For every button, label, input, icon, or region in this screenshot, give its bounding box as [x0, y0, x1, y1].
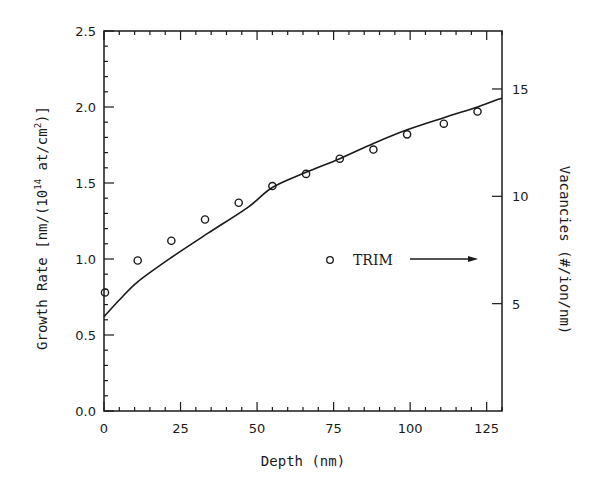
- data-point: [235, 199, 242, 206]
- x-tick-label: 0: [100, 421, 108, 436]
- y-tick-label: 2.0: [75, 100, 96, 115]
- x-tick-label: 50: [249, 421, 266, 436]
- y-axis-right: 51015: [492, 82, 529, 312]
- legend-marker-icon: [327, 257, 334, 264]
- y-title-mid: at/cm: [34, 128, 50, 179]
- y2-tick-label: 15: [512, 82, 529, 97]
- data-point: [403, 131, 410, 138]
- data-point: [440, 120, 447, 127]
- y-tick-label: 2.5: [75, 24, 96, 39]
- legend: TRIM: [327, 252, 478, 268]
- y-title-pre: Growth Rate [nm/(10: [34, 190, 50, 350]
- data-point: [474, 108, 481, 115]
- y2-axis-title: Vacancies (#/ion/nm): [557, 166, 573, 335]
- y-tick-label: 0.5: [75, 328, 96, 343]
- y2-tick-label: 10: [512, 189, 529, 204]
- y-axis-title: Growth Rate [nm/(1014 at/cm2)]: [33, 106, 50, 350]
- x-tick-label: 25: [172, 421, 189, 436]
- y-title-exponent: 14: [33, 179, 43, 190]
- fit-curve: [104, 98, 502, 317]
- legend-label: TRIM: [353, 252, 393, 268]
- arrowhead-icon: [468, 256, 478, 262]
- x-axis-title: Depth (nm): [261, 453, 345, 469]
- y-tick-label: 1.0: [75, 252, 96, 267]
- y-title-post: )]: [34, 106, 50, 123]
- y-tick-label: 1.5: [75, 176, 96, 191]
- y-tick-label: 0.0: [75, 404, 96, 419]
- x-tick-label: 125: [474, 421, 499, 436]
- y-axis-left: 0.00.51.01.52.02.5: [75, 24, 114, 419]
- x-tick-label: 75: [325, 421, 342, 436]
- trim-data-points: [101, 108, 481, 296]
- data-point: [370, 146, 377, 153]
- data-point: [134, 257, 141, 264]
- data-point: [201, 216, 208, 223]
- data-point: [168, 237, 175, 244]
- plot-border: [104, 31, 502, 411]
- x-axis: 0255075100125: [100, 31, 502, 436]
- plot-frame: [104, 31, 502, 411]
- x-tick-label: 100: [398, 421, 423, 436]
- y2-tick-label: 5: [512, 297, 520, 312]
- chart: 0255075100125 0.00.51.01.52.02.5 51015 T…: [0, 0, 593, 490]
